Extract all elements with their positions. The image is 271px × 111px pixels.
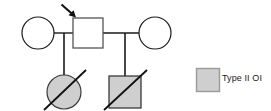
- individual-i-3-female-unaffected[interactable]: [139, 17, 171, 49]
- generation-1: [22, 17, 171, 49]
- proband-arrow-icon: [62, 5, 77, 18]
- legend-swatch-type-ii-oi: [197, 69, 220, 92]
- generation-2: [47, 75, 141, 109]
- individual-i-1-female-unaffected[interactable]: [22, 17, 54, 49]
- individual-i-2-male-proband[interactable]: [73, 18, 103, 48]
- legend: [197, 69, 220, 92]
- pedigree-canvas: [0, 0, 271, 111]
- pedigree-diagram: Type II OI: [0, 0, 271, 111]
- legend-label-type-ii-oi: Type II OI: [222, 72, 271, 84]
